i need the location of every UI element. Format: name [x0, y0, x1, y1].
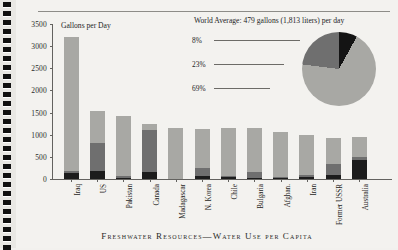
figure-caption: Freshwater Resources—Water Use per Capit…	[16, 231, 398, 241]
binding-hole	[3, 2, 11, 7]
bar	[273, 132, 288, 179]
binding-hole	[3, 218, 11, 223]
bar-segment	[221, 128, 236, 176]
x-axis-tick-mark	[202, 179, 203, 182]
y-axis-tick-mark	[50, 135, 53, 136]
y-axis-tick-label: 3500	[31, 20, 47, 29]
x-axis-tick-mark	[307, 179, 308, 182]
y-axis-tick-label: 1000	[31, 130, 47, 139]
binding-hole	[3, 128, 11, 133]
bar-segment	[90, 143, 105, 170]
x-axis-tick-label: US	[100, 184, 108, 193]
y-axis-tick-label: 2500	[31, 64, 47, 73]
x-axis-tick-label: Canada	[153, 184, 161, 206]
x-axis-tick-label: N. Korea	[205, 184, 213, 210]
binding-hole	[3, 92, 11, 97]
binding-hole	[3, 101, 11, 106]
bar-segment	[299, 135, 314, 175]
bar	[247, 128, 262, 179]
binding-hole	[3, 155, 11, 160]
bar-segment	[352, 160, 367, 179]
binding-hole	[3, 38, 11, 43]
pie-chart-block: World Average: 479 gallons (1,813 liters…	[192, 16, 398, 112]
x-axis-tick-mark	[150, 179, 151, 182]
bar	[116, 116, 131, 179]
y-axis-tick-label: 1500	[31, 108, 47, 117]
x-axis-tick-label: Madagascar	[179, 184, 187, 219]
y-axis-tick-mark	[50, 90, 53, 91]
x-axis-tick-label: Iraq	[74, 184, 82, 196]
x-axis-tick-label: Pakistan	[126, 184, 134, 208]
binding-hole	[3, 11, 11, 16]
bar-segment	[142, 130, 157, 172]
x-axis-tick-mark	[71, 179, 72, 182]
page-surface: Gallons per Day 050010001500200025003000…	[16, 0, 398, 248]
y-axis-tick-mark	[50, 46, 53, 47]
bar	[326, 138, 341, 179]
x-axis-tick-mark	[123, 179, 124, 182]
x-axis	[52, 179, 392, 180]
pie-slice-label: 69%	[192, 84, 206, 93]
binding-hole	[3, 29, 11, 34]
bar	[352, 137, 367, 179]
x-axis-tick-label: Chile	[231, 184, 239, 200]
y-axis-tick-label: 0	[43, 175, 47, 184]
binding-hole	[3, 245, 11, 250]
bar-segment	[90, 171, 105, 179]
pie-slice-label: 23%	[192, 60, 206, 69]
bar-segment	[142, 172, 157, 179]
bar	[90, 111, 105, 179]
pie-leader-line	[214, 64, 284, 65]
binding-hole	[3, 110, 11, 115]
bar-segment	[195, 168, 210, 177]
bar	[195, 129, 210, 179]
binding-hole	[3, 209, 11, 214]
bar-segment	[247, 128, 262, 172]
x-axis-tick-mark	[176, 179, 177, 182]
bar-segment	[64, 37, 79, 170]
x-axis-tick-mark	[97, 179, 98, 182]
binding-hole	[3, 182, 11, 187]
bar-segment	[116, 116, 131, 177]
x-axis-tick-label: Bulgaria	[257, 184, 265, 209]
binding-hole	[3, 200, 11, 205]
bar	[168, 128, 183, 179]
bar	[64, 37, 79, 179]
spiral-binding	[0, 0, 16, 248]
binding-hole	[3, 191, 11, 196]
binding-hole	[3, 74, 11, 79]
x-axis-tick-mark	[254, 179, 255, 182]
binding-hole	[3, 20, 11, 25]
pie-slice-label: 8%	[192, 36, 202, 45]
bar	[221, 128, 236, 179]
binding-hole	[3, 119, 11, 124]
binding-hole	[3, 146, 11, 151]
x-axis-tick-mark	[359, 179, 360, 182]
binding-hole	[3, 56, 11, 61]
bar	[142, 124, 157, 179]
y-axis	[52, 24, 53, 179]
x-axis-tick-mark	[333, 179, 334, 182]
binding-hole	[3, 47, 11, 52]
binding-hole	[3, 236, 11, 241]
bar-segment	[326, 138, 341, 164]
x-axis-tick-mark	[281, 179, 282, 182]
binding-hole	[3, 137, 11, 142]
x-axis-tick-label: Afghan.	[284, 184, 292, 207]
bar-segment	[195, 129, 210, 168]
y-axis-tick-mark	[50, 179, 53, 180]
binding-hole	[3, 83, 11, 88]
y-axis-tick-label: 2000	[31, 86, 47, 95]
bar	[299, 135, 314, 179]
x-axis-tick-mark	[228, 179, 229, 182]
pie-leader-line	[214, 40, 300, 41]
y-axis-tick-mark	[50, 113, 53, 114]
y-axis-tick-mark	[50, 24, 53, 25]
x-axis-tick-label: Iran	[310, 184, 318, 196]
binding-hole	[3, 173, 11, 178]
y-axis-tick-label: 3000	[31, 42, 47, 51]
pie-leader-line	[214, 88, 270, 89]
x-axis-tick-label: Former USSR	[336, 184, 344, 225]
bar-segment	[326, 164, 341, 176]
chart-title: Gallons per Day	[61, 21, 111, 30]
